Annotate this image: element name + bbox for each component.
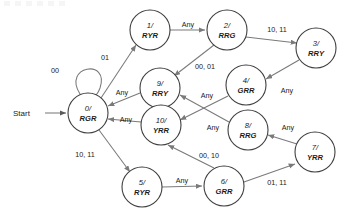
state-circle-4[interactable]	[226, 65, 266, 105]
state-output-10: YRR	[153, 126, 170, 135]
state-id-4: 4/	[243, 76, 250, 85]
edge-label-s5-s6: Any	[176, 176, 189, 185]
state-output-7: YRR	[307, 153, 324, 162]
state-circle-1[interactable]	[130, 10, 170, 50]
state-node-1[interactable]: 1/ RYR	[130, 10, 170, 50]
edge-label-s4-s10: Any	[201, 91, 214, 100]
edge-label-s0-s5: 10, 11	[75, 150, 94, 159]
edge-label-s10-s0: Any	[120, 115, 133, 124]
state-id-5: 5/	[139, 178, 146, 187]
state-output-4: GRR	[238, 86, 255, 95]
edge-s0-s0	[76, 69, 101, 95]
state-circle-9[interactable]	[140, 68, 180, 108]
edge-label-s6-s10: 00, 10	[199, 151, 219, 160]
state-circle-7[interactable]	[295, 132, 335, 172]
state-node-0[interactable]: 0/ RGR	[68, 93, 108, 133]
state-circle-0[interactable]	[68, 93, 108, 133]
edge-label-s0-s0: 00	[51, 66, 59, 75]
edge-s3-s4	[266, 60, 299, 79]
state-id-0: 0/	[85, 104, 92, 113]
state-node-7[interactable]: 7/ YRR	[295, 132, 335, 172]
state-output-3: RRY	[308, 49, 325, 58]
state-node-8[interactable]: 8/ RRG	[228, 110, 268, 150]
state-output-2: RRG	[219, 31, 236, 40]
state-circle-8[interactable]	[228, 110, 268, 150]
state-circle-2[interactable]	[207, 10, 247, 50]
edge-label-s6-s7: 01, 11	[267, 178, 286, 187]
edge-label-s7-s8: Any	[282, 123, 295, 132]
state-id-9: 9/	[157, 79, 164, 88]
fsm-canvas: 0/ RGR 1/ RYR 2/ RRG 3/ RRY 4/ GRR	[0, 0, 340, 219]
state-node-6[interactable]: 6/ GRR	[204, 166, 244, 206]
state-output-5: RYR	[134, 188, 150, 197]
edge-label-s1-s2: Any	[182, 20, 195, 29]
state-id-6: 6/	[221, 177, 228, 186]
state-node-3[interactable]: 3/ RRY	[296, 28, 336, 68]
state-output-1: RYR	[142, 31, 158, 40]
fsm-diagram: 0/ RGR 1/ RYR 2/ RRG 3/ RRY 4/ GRR	[0, 0, 340, 219]
edge-s2-s9	[174, 45, 214, 76]
edge-label-s2-s9: 00, 01	[195, 62, 215, 71]
edge-s0-s5	[99, 130, 130, 172]
state-output-9: RRY	[152, 89, 169, 98]
state-node-2[interactable]: 2/ RRG	[207, 10, 247, 50]
state-id-2: 2/	[223, 21, 231, 30]
state-circle-6[interactable]	[204, 166, 244, 206]
state-circle-3[interactable]	[296, 28, 336, 68]
state-circle-5[interactable]	[122, 167, 162, 207]
edge-s2-s3	[246, 37, 297, 43]
state-output-0: RGR	[80, 114, 97, 123]
state-node-4[interactable]: 4/ GRR	[226, 65, 266, 105]
edge-label-s2-s3: 10, 11	[267, 25, 286, 34]
edge-s5-s6	[162, 186, 202, 187]
state-id-7: 7/	[312, 143, 319, 152]
state-id-10: 10/	[156, 116, 167, 125]
state-output-8: RRG	[240, 131, 257, 140]
edge-label-s0-s1: 01	[101, 53, 109, 62]
edge-label-s8-s9: Any	[207, 123, 220, 132]
state-circle-10[interactable]	[141, 105, 181, 145]
state-id-1: 1/	[147, 21, 154, 30]
edge-s7-s8	[268, 135, 297, 144]
state-id-8: 8/	[245, 121, 252, 130]
state-output-6: GRR	[216, 187, 233, 196]
state-node-5[interactable]: 5/ RYR	[122, 167, 162, 207]
state-node-9[interactable]: 9/ RRY	[140, 68, 180, 108]
state-id-3: 3/	[313, 39, 320, 48]
edge-label-s3-s4: Any	[281, 86, 294, 95]
state-node-10[interactable]: 10/ YRR	[141, 105, 181, 145]
start-label: Start	[13, 109, 31, 118]
edge-label-s9-s0: Any	[116, 88, 129, 97]
